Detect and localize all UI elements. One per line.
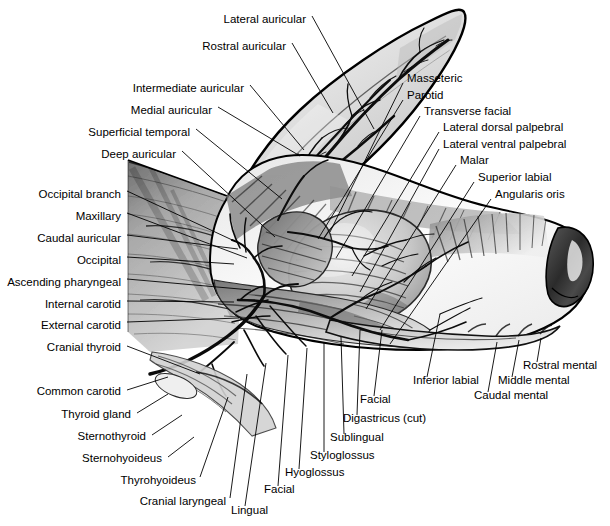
label-rostral-auricular: Rostral auricular (202, 40, 286, 53)
label-medial-auricular: Medial auricular (131, 104, 212, 117)
label-deep-auricular: Deep auricular (101, 148, 176, 161)
label-occipital-branch: Occipital branch (39, 188, 121, 201)
label-thyrohyoideus: Thyrohyoideus (121, 474, 196, 487)
label-masseteric: Masseteric (407, 72, 463, 85)
label-parotid: Parotid (407, 89, 443, 102)
label-sternothyroid: Sternothyroid (78, 430, 146, 443)
label-facial-ventral: Facial (264, 483, 295, 496)
label-cranial-thyroid: Cranial thyroid (47, 341, 121, 354)
label-hyoglossus: Hyoglossus (285, 466, 344, 479)
label-caudal-mental: Caudal mental (474, 389, 548, 402)
label-facial-lateral: Facial (360, 393, 391, 406)
label-occipital: Occipital (77, 254, 121, 267)
parotid-gland (258, 212, 332, 287)
label-thyroid-gland: Thyroid gland (61, 408, 131, 421)
label-digastricus-cut: Digastricus (cut) (343, 412, 426, 425)
label-malar: Malar (460, 154, 489, 167)
label-maxillary: Maxillary (76, 210, 121, 223)
anatomical-figure: Lateral auricularRostral auricularInterm… (0, 0, 610, 526)
label-lateral-auricular: Lateral auricular (224, 13, 306, 26)
label-cranial-laryngeal: Cranial laryngeal (140, 495, 226, 508)
label-sublingual: Sublingual (330, 431, 384, 444)
label-angularis-oris: Angularis oris (495, 188, 565, 201)
label-rostral-mental: Rostral mental (523, 359, 597, 372)
label-internal-carotid: Internal carotid (45, 298, 121, 311)
label-sternohyoideus: Sternohyoideus (82, 452, 162, 465)
label-ascending-pharyngeal: Ascending pharyngeal (7, 276, 121, 289)
label-inferior-labial: Inferior labial (413, 374, 479, 387)
label-lateral-dorsal-palpebral: Lateral dorsal palpebral (443, 121, 563, 134)
label-caudal-auricular: Caudal auricular (37, 232, 121, 245)
label-lingual: Lingual (231, 504, 268, 517)
label-transverse-facial: Transverse facial (424, 105, 511, 118)
label-styloglossus: Styloglossus (310, 449, 375, 462)
label-superficial-temporal: Superficial temporal (88, 126, 190, 139)
label-intermediate-auricular: Intermediate auricular (133, 82, 244, 95)
label-lateral-ventral-palpebral: Lateral ventral palpebral (443, 138, 566, 151)
label-middle-mental: Middle mental (498, 374, 570, 387)
label-common-carotid: Common carotid (37, 385, 121, 398)
label-external-carotid: External carotid (41, 319, 121, 332)
label-superior-labial: Superior labial (478, 171, 552, 184)
